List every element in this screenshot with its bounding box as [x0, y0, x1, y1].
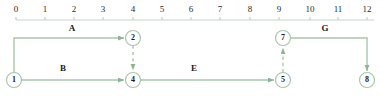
node-label-1: 1	[6, 72, 22, 88]
node-label-2: 2	[125, 30, 141, 46]
axis-tick-label-6: 6	[181, 4, 201, 15]
axis-tick-label-3: 3	[93, 4, 113, 15]
axis-tick-label-12: 12	[357, 4, 377, 15]
diagram-drawing-surface	[0, 0, 381, 105]
network-diagram-canvas: 0 1 2 3 4 5 6 7 8 9 10 11 12 1 2 4 5 7 8…	[0, 0, 381, 105]
edge-label-A: A	[62, 23, 82, 33]
node-label-4: 4	[125, 72, 141, 88]
node-label-8: 8	[359, 72, 375, 88]
axis-tick-label-11: 11	[328, 4, 348, 15]
event-nodes	[7, 31, 375, 88]
axis-tick-label-8: 8	[240, 4, 260, 15]
node-label-7: 7	[275, 30, 291, 46]
edge-label-B: B	[53, 63, 73, 73]
axis-tick-label-0: 0	[6, 4, 26, 15]
axis-tick-label-1: 1	[35, 4, 55, 15]
edge-G[interactable]	[291, 38, 368, 71]
axis-tick-label-2: 2	[64, 4, 84, 15]
node-label-5: 5	[275, 72, 291, 88]
axis-tick-label-10: 10	[300, 4, 320, 15]
axis-tick-label-9: 9	[269, 4, 289, 15]
axis-tick-label-4: 4	[123, 4, 143, 15]
axis-tick-label-7: 7	[210, 4, 230, 15]
edge-label-E: E	[184, 63, 204, 73]
edge-label-G: G	[315, 23, 335, 33]
axis-tick-label-5: 5	[152, 4, 172, 15]
